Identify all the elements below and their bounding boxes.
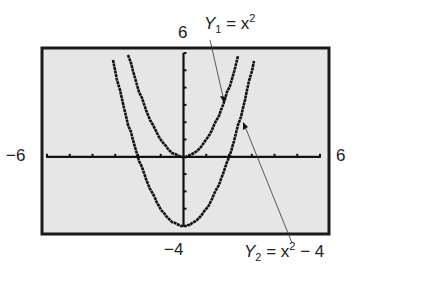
ymin-label: −4 — [164, 240, 183, 260]
legend-y1: Y1 = x2 — [204, 12, 255, 35]
ymax-label: 6 — [178, 23, 187, 43]
xmin-label: −6 — [6, 146, 25, 166]
graph-screen — [0, 0, 421, 282]
screen-frame — [42, 48, 329, 234]
legend-y2: Y2 = x2 − 4 — [244, 240, 324, 263]
xmax-label: 6 — [336, 146, 345, 166]
